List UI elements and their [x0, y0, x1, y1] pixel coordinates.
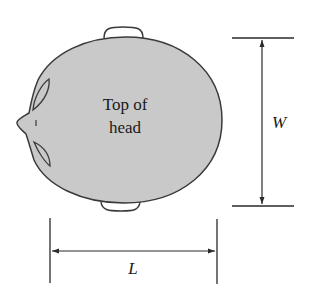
length-label: L [127, 259, 137, 278]
head-dimension-diagram: Top of head W L [0, 0, 316, 305]
width-label: W [272, 113, 288, 132]
head-label-line2: head [109, 118, 142, 137]
head-label-line1: Top of [103, 95, 148, 114]
